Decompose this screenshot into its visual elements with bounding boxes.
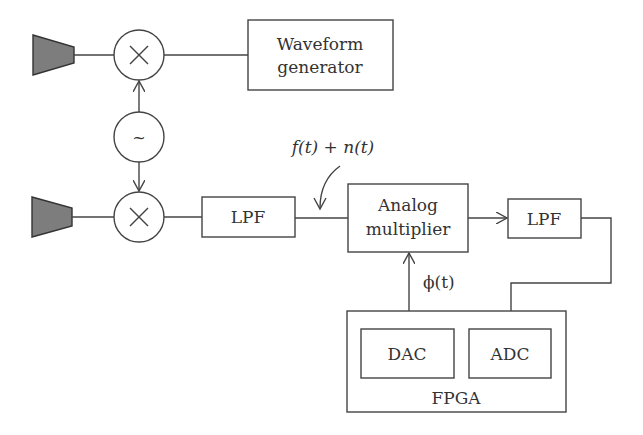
lpf2-box: LPF	[508, 199, 581, 238]
mixer-top	[114, 30, 164, 80]
phase-label: ϕ(t)	[423, 272, 455, 292]
analog-multiplier-label-line2: multiplier	[366, 219, 452, 239]
antenna-bottom-icon	[32, 197, 72, 237]
signal-pointer-curve	[320, 166, 340, 208]
mixer-bottom	[114, 192, 164, 242]
antenna-top-icon	[33, 35, 74, 75]
waveform-generator-box: Waveform generator	[248, 20, 393, 90]
analog-multiplier-box: Analog multiplier	[348, 184, 468, 252]
analog-multiplier-label-line1: Analog	[377, 195, 438, 215]
adc-box: ADC	[469, 329, 551, 378]
lpf1-label: LPF	[231, 207, 266, 227]
signal-label: f(t) + n(t)	[290, 137, 375, 157]
dac-box: DAC	[361, 329, 454, 378]
waveform-generator-label-line2: generator	[277, 57, 363, 77]
lpf2-label: LPF	[527, 209, 562, 229]
adc-label: ADC	[490, 344, 530, 364]
sine-wave-icon: ~	[132, 128, 145, 147]
block-diagram: Waveform generator ~ LPF f(t) + n(t) Ana…	[0, 0, 643, 435]
oscillator: ~	[114, 112, 164, 162]
waveform-generator-label-line1: Waveform	[277, 34, 364, 54]
lpf1-box: LPF	[202, 197, 295, 237]
fpga-label: FPGA	[431, 388, 481, 408]
dac-label: DAC	[388, 344, 427, 364]
